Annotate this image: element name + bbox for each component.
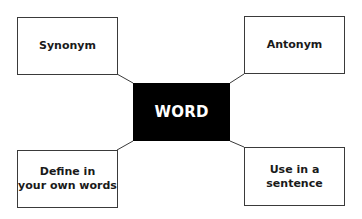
node-label-line: your own words	[18, 179, 117, 192]
node-label: Synonym	[39, 39, 96, 53]
center-word-box: WORD	[133, 83, 230, 141]
node-label-line: Use in a	[270, 163, 320, 176]
node-use-in-sentence: Use in a sentence	[244, 147, 345, 206]
center-label: WORD	[154, 105, 208, 119]
node-label: Use in a sentence	[266, 163, 322, 191]
node-label: Define in your own words	[18, 165, 117, 193]
node-label-line: sentence	[266, 177, 322, 190]
node-synonym: Synonym	[17, 17, 118, 75]
node-antonym: Antonym	[244, 16, 345, 74]
connector-bottom-right	[230, 141, 244, 147]
connector-top-left	[117, 74, 133, 83]
node-label-line: Define in	[40, 165, 95, 178]
node-label: Antonym	[267, 38, 323, 52]
connector-bottom-left	[117, 141, 133, 150]
node-define: Define in your own words	[17, 150, 118, 208]
connector-top-right	[230, 74, 244, 83]
